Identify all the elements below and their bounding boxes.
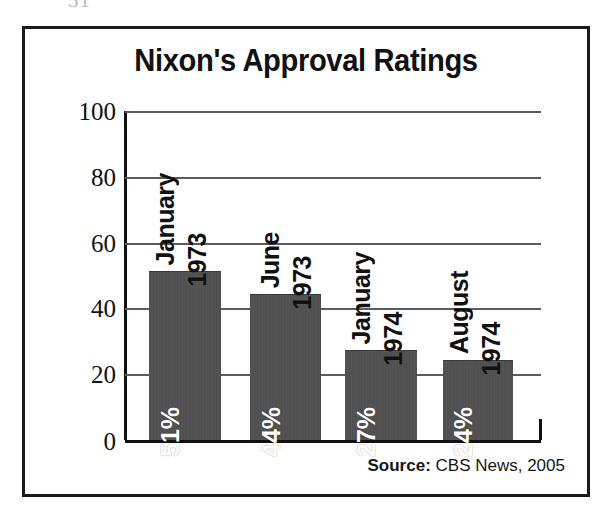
y-tick-label-20: 20: [91, 362, 116, 390]
source-label: Source:: [368, 456, 431, 475]
bar-category-label-january-1973: January 1973: [151, 169, 212, 265]
bar-category-month-january-1974: January: [347, 252, 376, 344]
bar-category-month-january-1973: January: [151, 173, 180, 265]
bar-category-month-august-1974: August: [445, 271, 474, 354]
gridline-0-baseline: 0: [125, 440, 541, 443]
bar-category-label-june-1973: June 1973: [256, 206, 317, 288]
bar-category-year-august-1974: 1974: [477, 322, 506, 376]
bar-category-label-august-1974: August 1974: [445, 262, 506, 354]
y-tick-label-60: 60: [91, 230, 116, 258]
chart-figure-frame: Nixon's Approval Ratings 100 80 60 40 20…: [22, 26, 590, 497]
x-axis-right-tick: [539, 419, 542, 440]
bar-january-1973[interactable]: 51%: [149, 271, 221, 440]
y-axis-line: [124, 111, 127, 440]
y-tick-label-100: 100: [79, 98, 117, 126]
bar-value-august-1974: 24%: [449, 407, 478, 457]
bar-category-year-january-1973: 1973: [183, 233, 212, 287]
scan-artifact-text: 51: [68, 0, 91, 13]
chart-title: Nixon's Approval Ratings: [42, 43, 570, 79]
bar-value-january-1973: 51%: [156, 407, 185, 457]
bar-june-1973[interactable]: 44%: [250, 294, 321, 440]
source-text: CBS News, 2005: [431, 456, 565, 475]
gridline-100: 100: [125, 111, 541, 113]
y-tick-label-40: 40: [91, 296, 116, 324]
bar-value-june-1973: 44%: [257, 407, 286, 457]
bar-category-month-june-1973: June: [256, 232, 285, 288]
bar-category-year-january-1974: 1974: [379, 312, 408, 366]
y-tick-label-0: 0: [104, 428, 117, 456]
plot-area: 100 80 60 40 20 0 51% January 1973 44%: [125, 111, 541, 440]
bar-value-january-1974: 27%: [352, 407, 381, 457]
bar-category-label-january-1974: January 1974: [347, 248, 408, 344]
y-tick-label-80: 80: [91, 164, 116, 192]
bar-category-year-june-1973: 1973: [288, 256, 317, 310]
source-note: Source: CBS News, 2005: [368, 456, 565, 476]
